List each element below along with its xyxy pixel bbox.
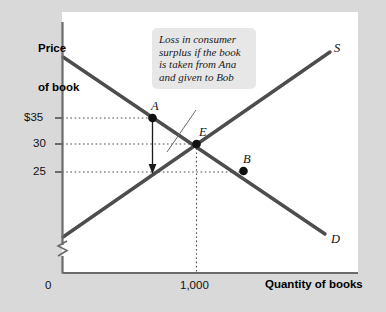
point-e-label: E bbox=[199, 125, 207, 140]
point-b-label: B bbox=[243, 152, 251, 167]
point-b-marker bbox=[239, 167, 248, 176]
y-tick-label-35: $35 bbox=[24, 111, 43, 123]
demand-curve-label: D bbox=[331, 232, 340, 247]
loss-callout: Loss in consumer surplus if the book is … bbox=[152, 28, 256, 89]
point-a-marker bbox=[148, 114, 157, 123]
axis-break-icon bbox=[58, 241, 67, 256]
supply-curve-label: S bbox=[334, 41, 340, 56]
y-axis-title-line2: of book bbox=[38, 81, 80, 94]
y-tick-label-30: 30 bbox=[33, 137, 46, 149]
y-axis-title-line1: Price bbox=[38, 42, 80, 55]
y-axis-title: Price of book bbox=[38, 16, 80, 120]
y-tick-label-25: 25 bbox=[33, 165, 46, 177]
x-axis-title: Quantity of books bbox=[265, 278, 363, 291]
surplus-loss-arrow bbox=[149, 122, 157, 174]
callout-line-2: surplus if the book bbox=[159, 46, 249, 59]
figure-container: Price of book $35 30 25 0 1,000 Quantity… bbox=[0, 0, 386, 312]
x-tick-label-1000: 1,000 bbox=[180, 279, 209, 291]
x-tick-label-0: 0 bbox=[45, 279, 51, 291]
callout-line-4: and given to Bob bbox=[159, 71, 249, 84]
callout-line-1: Loss in consumer bbox=[159, 33, 249, 46]
point-a-label: A bbox=[151, 99, 159, 114]
point-e-marker bbox=[192, 140, 201, 149]
callout-line-3: is taken from Ana bbox=[159, 58, 249, 71]
